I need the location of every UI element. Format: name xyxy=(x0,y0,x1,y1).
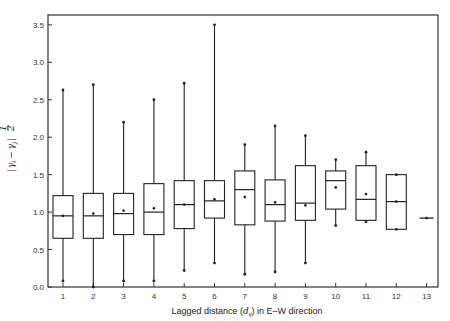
max-marker xyxy=(334,158,337,161)
box-lag-7 xyxy=(235,143,255,275)
max-marker xyxy=(365,151,368,154)
y-tick-label: 1.0 xyxy=(33,208,45,217)
box-lag-8 xyxy=(265,125,285,274)
x-axis-title: Lagged distance (dij) in E–W direction xyxy=(171,306,322,317)
min-marker xyxy=(365,220,368,223)
iqr-box xyxy=(326,171,346,209)
x-tick-label: 6 xyxy=(212,292,217,301)
box-lag-3 xyxy=(114,121,134,283)
x-tick-label: 9 xyxy=(303,292,308,301)
box-lag-11 xyxy=(356,151,376,223)
svg-text:2: 2 xyxy=(6,125,16,132)
x-tick-label: 8 xyxy=(273,292,278,301)
max-marker xyxy=(213,23,216,26)
box-lag-1 xyxy=(53,89,73,283)
y-tick-label: 0.0 xyxy=(33,283,45,292)
y-axis: 0.00.51.01.52.02.53.03.5 xyxy=(33,21,52,292)
x-tick-label: 12 xyxy=(392,292,401,301)
min-marker xyxy=(274,271,277,274)
min-marker xyxy=(153,280,156,283)
y-tick-label: 3.5 xyxy=(33,21,45,30)
mean-marker xyxy=(244,196,247,199)
mean-marker xyxy=(304,204,307,207)
x-tick-label: 3 xyxy=(121,292,126,301)
mean-marker xyxy=(274,201,277,204)
plot-area-border xyxy=(48,15,438,287)
max-marker xyxy=(304,134,307,137)
min-marker xyxy=(183,269,186,272)
min-marker xyxy=(243,273,246,276)
min-marker xyxy=(62,280,65,283)
x-tick-label: 1 xyxy=(61,292,66,301)
mean-marker xyxy=(122,209,125,212)
max-marker xyxy=(395,173,398,176)
y-tick-label: 2.0 xyxy=(33,133,45,142)
mean-marker xyxy=(425,217,428,220)
mean-marker xyxy=(213,198,216,201)
box-lag-6 xyxy=(205,23,225,264)
min-marker xyxy=(304,262,307,265)
x-tick-label: 5 xyxy=(182,292,187,301)
mean-marker xyxy=(334,186,337,189)
min-marker xyxy=(213,262,216,265)
min-marker xyxy=(122,280,125,283)
y-tick-label: 1.5 xyxy=(33,171,45,180)
max-marker xyxy=(122,121,125,124)
box-lag-4 xyxy=(144,98,164,282)
x-tick-label: 7 xyxy=(243,292,248,301)
box-lag-10 xyxy=(326,158,346,227)
box-lag-9 xyxy=(295,134,315,264)
box-lag-13 xyxy=(420,217,434,220)
box-lag-2 xyxy=(83,83,103,288)
min-marker xyxy=(395,228,398,231)
iqr-box xyxy=(265,180,285,221)
x-tick-label: 4 xyxy=(152,292,157,301)
box-series xyxy=(53,23,434,288)
max-marker xyxy=(183,82,186,85)
mean-marker xyxy=(183,203,186,206)
x-tick-label: 10 xyxy=(331,292,340,301)
svg-text:|γi−γj|: |γi−γj| xyxy=(6,138,18,172)
mean-marker xyxy=(62,215,65,218)
max-marker xyxy=(62,89,65,92)
mean-marker xyxy=(395,200,398,203)
y-tick-label: 0.5 xyxy=(33,246,45,255)
plot-frame xyxy=(48,15,438,287)
max-marker xyxy=(243,143,246,146)
x-tick-label: 13 xyxy=(422,292,431,301)
y-tick-label: 3.0 xyxy=(33,58,45,67)
iqr-box xyxy=(295,166,315,221)
max-marker xyxy=(274,125,277,128)
max-marker xyxy=(92,83,95,86)
x-tick-label: 2 xyxy=(91,292,96,301)
mean-marker xyxy=(153,207,156,210)
max-marker xyxy=(153,98,156,101)
box-lag-12 xyxy=(386,173,406,230)
mean-marker xyxy=(365,193,368,196)
box-lag-5 xyxy=(174,82,194,272)
x-tick-label: 11 xyxy=(362,292,371,301)
y-tick-label: 2.5 xyxy=(33,96,45,105)
y-axis-title: |γi−γj| 1 2 xyxy=(0,125,18,172)
x-axis: 12345678910111213 xyxy=(61,283,432,301)
min-marker xyxy=(92,286,95,289)
mean-marker xyxy=(92,212,95,215)
min-marker xyxy=(334,224,337,227)
box-plot-chart: 0.00.51.01.52.02.53.03.5 123456789101112… xyxy=(0,0,450,321)
